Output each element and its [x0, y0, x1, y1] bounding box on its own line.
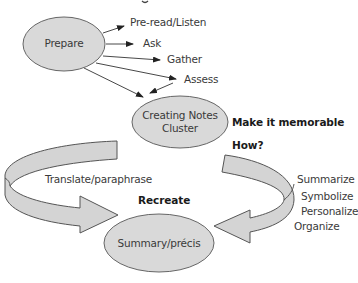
- how-curved-arrow: [214, 155, 294, 243]
- creating-notes-label: Creating Notes Cluster: [142, 109, 218, 135]
- step-ask: Ask: [143, 38, 161, 49]
- make-memorable-label: Make it memorable: [232, 117, 344, 128]
- step-preread: Pre-read/Listen: [130, 17, 206, 28]
- recreate-label: Recreate: [138, 195, 190, 206]
- prepare-label: Prepare: [45, 37, 84, 50]
- how-label: How?: [232, 140, 263, 151]
- summary-label: Summary/précis: [118, 237, 201, 250]
- how-step-summarize: Summarize: [297, 174, 355, 185]
- arrow-assess-to-notes: [150, 83, 173, 93]
- arrow-to-preread: [103, 26, 124, 33]
- translate-curved-arrow: [5, 141, 118, 233]
- arrow-prepare-to-notes: [84, 68, 143, 97]
- translate-label: Translate/paraphrase: [45, 174, 152, 185]
- step-gather: Gather: [167, 54, 202, 65]
- how-step-symbolize: Symbolize: [301, 191, 353, 202]
- arrow-to-gather: [103, 56, 160, 60]
- cropped-title-fragment: [142, 1, 148, 3]
- creating-notes-line1: Creating Notes: [142, 109, 218, 122]
- step-assess: Assess: [184, 74, 218, 85]
- how-step-personalize: Personalize: [301, 206, 358, 217]
- how-step-organize: Organize: [294, 221, 339, 232]
- arrow-to-assess: [96, 63, 176, 79]
- creating-notes-line2: Cluster: [142, 122, 218, 135]
